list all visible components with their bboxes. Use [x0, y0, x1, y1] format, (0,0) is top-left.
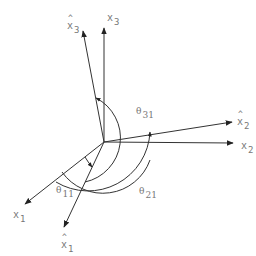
label-x1: x1 [13, 210, 25, 220]
label-subscript: 1 [20, 214, 25, 224]
label-subscript: 2 [244, 121, 249, 131]
arc-theta11 [85, 157, 92, 167]
theta-subscript: 31 [142, 110, 153, 120]
hat-mark: ^ [62, 233, 67, 243]
label-theta21: θ21 [139, 186, 157, 196]
theta-symbol: θ [139, 186, 144, 196]
axes-diagram [0, 0, 256, 256]
theta-subscript: 11 [62, 189, 73, 199]
axis-x2 [104, 142, 233, 143]
label-x3: x3 [107, 13, 119, 23]
axis-x3-hat [83, 31, 104, 142]
label-subscript: 2 [248, 145, 253, 155]
label-subscript: 1 [68, 244, 73, 254]
label-theta31: θ31 [136, 106, 154, 116]
theta-symbol: θ [56, 185, 61, 195]
label-base: x [13, 209, 19, 220]
label-base: x [107, 12, 113, 23]
label-subscript: 3 [114, 17, 119, 27]
label-x2-hat: ^x2 [237, 117, 249, 127]
label-subscript: 3 [74, 25, 79, 35]
axis-x2-hat [104, 122, 232, 142]
label-theta11: θ11 [56, 185, 74, 195]
label-x2: x2 [241, 141, 253, 151]
theta-subscript: 21 [145, 190, 156, 200]
label-base: x [241, 140, 247, 151]
hat-mark: ^ [68, 14, 73, 24]
theta-symbol: θ [136, 106, 141, 116]
label-x3-hat: ^x3 [67, 21, 79, 31]
hat-mark: ^ [238, 110, 243, 120]
arc-theta21 [56, 132, 150, 191]
label-x1-hat: ^x1 [61, 240, 73, 250]
